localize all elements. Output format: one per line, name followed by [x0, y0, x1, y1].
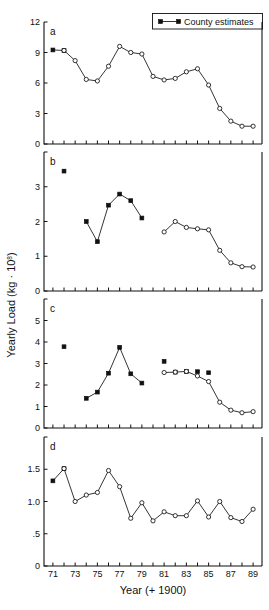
data-point-marker [118, 485, 122, 489]
y-tick-label: 0 [35, 286, 40, 296]
data-point-marker [207, 228, 211, 232]
panel-label-c: c [50, 303, 55, 314]
data-point-marker [218, 248, 222, 252]
data-point-marker [240, 124, 244, 128]
legend-marker [177, 20, 181, 24]
y-tick-label: 2 [35, 217, 40, 227]
data-point-marker [195, 499, 199, 503]
data-point-marker [62, 345, 66, 349]
panel-b: 0123b [35, 152, 262, 296]
y-tick-label: 1.0 [27, 497, 40, 507]
series-line-modeled-estimates [64, 46, 253, 126]
panel-a: 036912a [30, 17, 262, 149]
data-point-marker [251, 124, 255, 128]
y-tick-label: 1 [35, 251, 40, 261]
y-tick-label: .5 [32, 529, 40, 539]
multi-panel-line-chart: 036912a0123b012345c0.51.01.5717375777981… [0, 0, 269, 610]
data-point-marker [162, 370, 166, 374]
x-axis-title: Year (+ 1900) [120, 584, 187, 596]
panel-label-a: a [50, 26, 56, 37]
data-point-marker [240, 411, 244, 415]
data-point-marker [84, 493, 88, 497]
data-point-marker [151, 519, 155, 523]
y-axis-title: Yearly Load (kg · 108) [5, 252, 17, 357]
data-point-marker [73, 59, 77, 63]
data-point-marker [173, 76, 177, 80]
series-line-county-estimates [86, 194, 142, 242]
data-point-marker [140, 381, 144, 385]
y-tick-label: 12 [30, 17, 40, 27]
data-point-marker [107, 371, 111, 375]
x-tick-label: 75 [92, 569, 102, 579]
x-tick-label: 81 [159, 569, 169, 579]
data-point-marker [118, 192, 122, 196]
data-point-marker [95, 79, 99, 83]
y-tick-label: 0 [35, 423, 40, 433]
data-point-marker [51, 48, 55, 52]
data-point-marker [162, 230, 166, 234]
data-point-marker [207, 371, 211, 375]
legend-marker [159, 20, 163, 24]
data-point-marker [251, 410, 255, 414]
y-tick-label: 9 [35, 48, 40, 58]
data-point-marker [62, 48, 66, 52]
data-point-marker [240, 519, 244, 523]
y-tick-label: 6 [35, 78, 40, 88]
data-point-marker [62, 467, 66, 471]
data-point-marker [129, 516, 133, 520]
data-point-marker [207, 83, 211, 87]
data-point-marker [229, 408, 233, 412]
series-line-modeled-estimates [164, 371, 253, 412]
y-tick-label: 4 [35, 337, 40, 347]
data-point-marker [184, 225, 188, 229]
y-tick-label: 3 [35, 182, 40, 192]
y-tick-label: 1.5 [27, 464, 40, 474]
y-tick-label: 0 [35, 561, 40, 571]
data-point-marker [218, 499, 222, 503]
data-point-marker [118, 44, 122, 48]
data-point-marker [84, 77, 88, 81]
x-tick-label: 87 [226, 569, 236, 579]
data-point-marker [140, 52, 144, 56]
data-point-marker [251, 265, 255, 269]
panel-a-axes [44, 22, 262, 144]
data-point-marker [162, 359, 166, 363]
data-point-marker [140, 216, 144, 220]
data-point-marker [229, 119, 233, 123]
data-point-marker [218, 106, 222, 110]
x-tick-label: 85 [204, 569, 214, 579]
data-point-marker [151, 74, 155, 78]
y-tick-label: 5 [35, 316, 40, 326]
data-point-marker [240, 265, 244, 269]
data-point-marker [162, 510, 166, 514]
x-tick-label: 73 [70, 569, 80, 579]
panel-c: 012345c [35, 299, 262, 433]
legend-label: County estimates [184, 17, 254, 27]
data-point-marker [162, 78, 166, 82]
y-tick-label: 2 [35, 380, 40, 390]
panel-d: 0.51.01.571737577798183858789d [27, 437, 262, 579]
y-axis-title-text: Yearly Load (kg · 108) [5, 252, 17, 357]
x-tick-label: 71 [48, 569, 58, 579]
data-point-marker [229, 261, 233, 265]
data-point-marker [95, 240, 99, 244]
y-tick-label: 3 [35, 109, 40, 119]
data-point-marker [173, 370, 177, 374]
data-point-marker [118, 345, 122, 349]
data-point-marker [129, 50, 133, 54]
data-point-marker [84, 396, 88, 400]
panel-label-d: d [50, 441, 56, 452]
series-line-county-estimates [86, 347, 142, 398]
data-point-marker [107, 203, 111, 207]
panel-label-b: b [50, 156, 56, 167]
y-tick-label: 3 [35, 359, 40, 369]
data-point-marker [218, 400, 222, 404]
data-point-marker [195, 67, 199, 71]
data-point-marker [51, 479, 55, 483]
data-point-marker [173, 219, 177, 223]
x-tick-label: 77 [115, 569, 125, 579]
legend: County estimates [153, 14, 263, 30]
x-tick-label: 79 [137, 569, 147, 579]
data-point-marker [173, 514, 177, 518]
data-point-marker [207, 515, 211, 519]
